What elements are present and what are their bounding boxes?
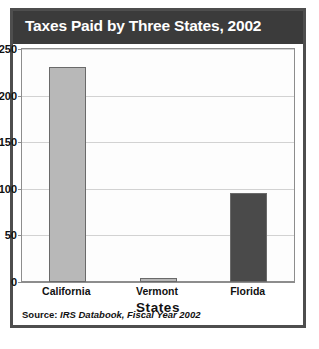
y-tick-label: 50 (5, 229, 17, 241)
bar-california (49, 67, 86, 282)
x-axis-ticks: CaliforniaVermontFlorida (21, 285, 295, 301)
x-tick-label-california: California (42, 285, 90, 297)
plot-area: 050100150200250 (21, 48, 295, 283)
source-note: Source: IRS Databook, Fiscal Year 2002 (22, 309, 200, 320)
chart-title: Taxes Paid by Three States, 2002 (25, 17, 261, 35)
bars-layer (22, 49, 294, 282)
chart-figure: Taxes Paid by Three States, 2002 Dollars… (10, 8, 306, 328)
bar-vermont (140, 278, 177, 282)
y-tick-mark (18, 282, 22, 283)
y-tick-label: 250 (0, 43, 17, 55)
y-tick-label: 0 (11, 276, 17, 288)
bar-florida (230, 193, 267, 282)
x-tick-label-vermont: Vermont (136, 285, 178, 297)
y-tick-label: 150 (0, 136, 17, 148)
y-tick-label: 100 (0, 183, 17, 195)
chart-header-bar: Taxes Paid by Three States, 2002 (13, 11, 303, 44)
source-label: Source: (22, 309, 57, 320)
y-tick-label: 200 (0, 90, 17, 102)
source-text: IRS Databook, Fiscal Year 2002 (60, 309, 200, 320)
x-tick-label-florida: Florida (230, 285, 265, 297)
